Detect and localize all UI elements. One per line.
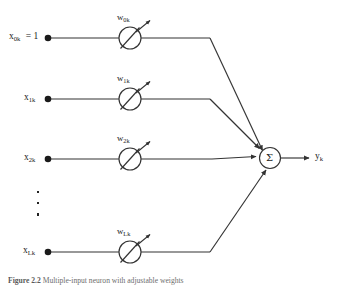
input-sub-0: 0k: [14, 35, 21, 42]
weight-symbol-row-1: [119, 82, 150, 111]
ellipsis-dot: [37, 202, 39, 204]
neuron-diagram: [0, 0, 339, 287]
weight-label-2: w2k: [117, 134, 130, 143]
caption-text: Multiple-input neuron with adjustable we…: [43, 276, 184, 285]
input-dot-2: [45, 156, 52, 163]
summation-symbol: Σ: [266, 152, 273, 163]
signal-path-row-1: [48, 99, 260, 149]
input-label-2: x2k: [24, 153, 35, 163]
input-value-0: = 1: [26, 31, 38, 41]
signal-path-row-2: [48, 157, 256, 160]
weight-sub-0: 0k: [123, 16, 129, 23]
weight-sub-2: 2k: [123, 137, 129, 144]
input-dot-0: [45, 35, 52, 42]
ellipsis-dot: [37, 191, 39, 193]
signal-path-row-0: [48, 38, 263, 151]
caption-number: Figure 2.2: [8, 276, 41, 285]
input-dot-3: [45, 249, 52, 256]
input-sub-2: 2k: [29, 156, 36, 163]
weight-symbol-row-3: [119, 235, 150, 264]
input-dot-1: [45, 96, 52, 103]
ellipsis-dot: [37, 213, 39, 215]
figure-container: x0k = 1 x1k x2k xLk w0k w1k w2k wLk Σ yk…: [0, 0, 339, 287]
output-label: yk: [315, 152, 323, 162]
weight-label-1: w1k: [117, 74, 130, 83]
input-sub-1: 1k: [29, 96, 36, 103]
vertical-ellipsis: [37, 191, 40, 225]
weight-label-3: wLk: [117, 227, 130, 236]
figure-caption: Figure 2.2 Multiple-input neuron with ad…: [8, 276, 332, 287]
weight-symbol-row-2: [119, 142, 150, 171]
output-sub: k: [320, 155, 323, 162]
signal-path-row-3: [48, 170, 266, 252]
weight-symbol-row-0: [119, 21, 150, 50]
input-label-0: x0k = 1: [9, 32, 38, 42]
input-sub-3: Lk: [28, 249, 35, 256]
input-terminals: [45, 35, 52, 256]
weight-sub-1: 1k: [123, 77, 129, 84]
weight-sub-3: Lk: [123, 230, 130, 237]
input-label-3: xLk: [23, 246, 35, 256]
input-label-1: x1k: [24, 93, 35, 103]
weight-label-0: w0k: [117, 13, 130, 22]
